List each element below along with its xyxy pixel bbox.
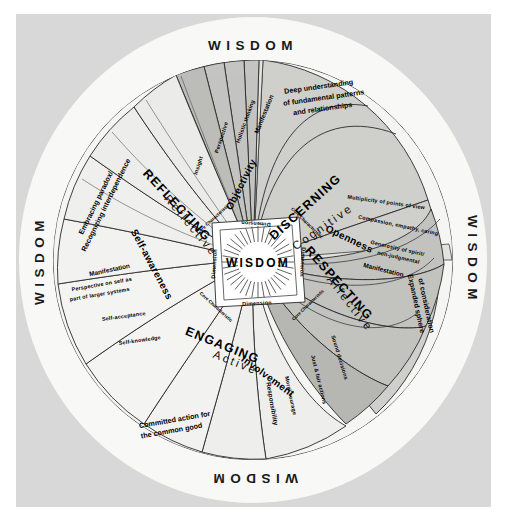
wheel-svg: WISDOM WISDOM WISDOM WISDOM DISCERNING C… [16,14,491,507]
outer-wisdom-right: WISDOM [465,215,480,305]
center-wisdom-label: WISDOM [226,256,290,270]
outer-wisdom-bottom: WISDOM [208,471,298,486]
outer-wisdom-left: WISDOM [32,215,47,305]
outer-wisdom-top: WISDOM [208,38,298,53]
figure-canvas: WISDOM WISDOM WISDOM WISDOM DISCERNING C… [0,0,507,532]
wisdom-wheel: WISDOM WISDOM WISDOM WISDOM DISCERNING C… [16,14,491,507]
